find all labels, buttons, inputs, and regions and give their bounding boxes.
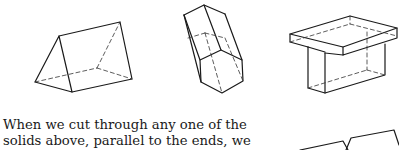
hexagonal-prism-figure	[184, 5, 243, 93]
caption-line-1: When we cut through any one of the	[3, 117, 263, 133]
t-shaped-prism-figure	[290, 16, 397, 93]
caption-line-2: solids above, parallel to the ends, we	[3, 133, 263, 149]
caption-text: When we cut through any one of the solid…	[3, 117, 263, 148]
partial-solid-figure	[300, 130, 399, 150]
triangular-prism-figure	[35, 22, 132, 92]
